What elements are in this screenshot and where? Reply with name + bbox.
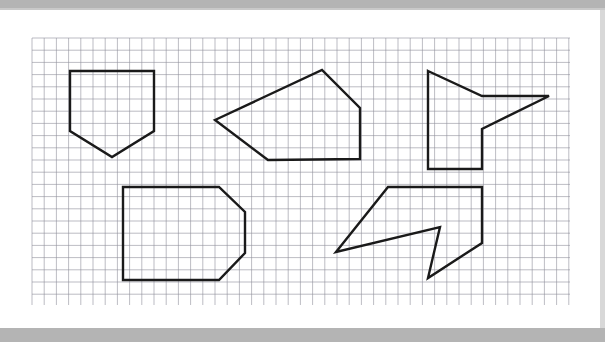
irregular-pentagon [215,70,360,160]
worksheet-scan [0,0,605,342]
concave-lightning-arrow [336,187,482,278]
concave-arrow-right [428,71,549,169]
pentagon-home-plate-down [70,71,154,157]
graph-paper-grid [32,38,570,305]
grid-and-shapes-canvas [0,0,605,342]
